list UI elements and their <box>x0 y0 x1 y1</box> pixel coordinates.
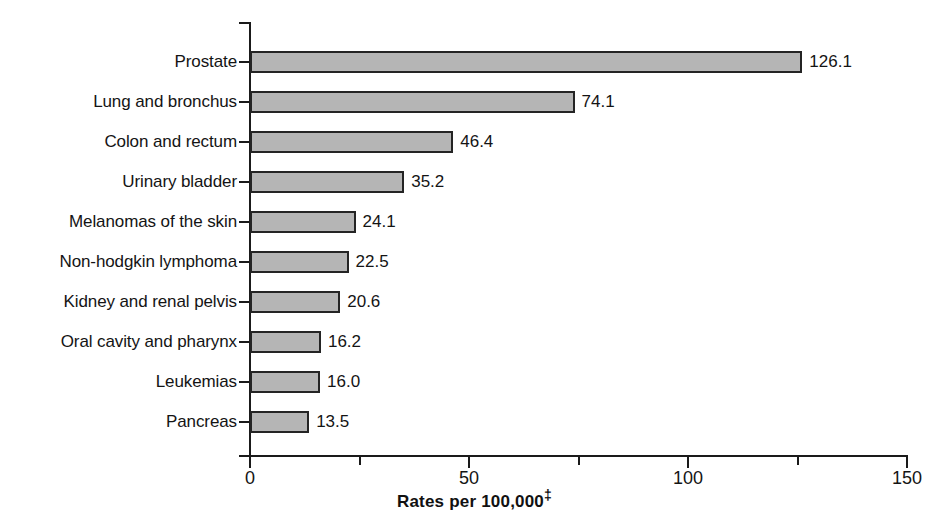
bar <box>250 91 575 113</box>
plot-area: Prostate126.1Lung and bronchus74.1Colon … <box>0 0 949 528</box>
footnote-marker: ‡ <box>544 487 552 503</box>
bar-value-label: 35.2 <box>411 162 444 202</box>
bar-value-label: 24.1 <box>363 202 396 242</box>
y-axis-tick <box>239 61 250 63</box>
x-axis-tick-label: 100 <box>673 468 703 489</box>
x-axis-major-tick <box>249 457 251 468</box>
bar-row: Pancreas13.5 <box>0 402 949 442</box>
bar-row: Non-hodgkin lymphoma22.5 <box>0 242 949 282</box>
x-axis-tick-label: 150 <box>892 468 922 489</box>
bar <box>250 51 802 73</box>
bar-row: Leukemias16.0 <box>0 362 949 402</box>
bar-row: Urinary bladder35.2 <box>0 162 949 202</box>
x-axis-major-tick <box>687 457 689 468</box>
bar-chart: Prostate126.1Lung and bronchus74.1Colon … <box>0 0 949 528</box>
bar <box>250 131 453 153</box>
bar-value-label: 74.1 <box>582 82 615 122</box>
x-axis-major-tick <box>468 457 470 468</box>
bar-value-label: 22.5 <box>356 242 389 282</box>
y-axis-tick <box>239 221 250 223</box>
y-axis-tick <box>239 181 250 183</box>
bar <box>250 211 356 233</box>
y-axis-tick <box>239 301 250 303</box>
bar <box>250 291 340 313</box>
category-label: Melanomas of the skin <box>69 202 237 242</box>
category-label: Lung and bronchus <box>93 82 237 122</box>
x-axis-title: Rates per 100,000‡ <box>0 492 949 512</box>
category-label: Leukemias <box>156 362 237 402</box>
y-axis-tick <box>239 101 250 103</box>
y-axis-tick <box>239 261 250 263</box>
y-axis-tick <box>239 341 250 343</box>
category-label: Non-hodgkin lymphoma <box>59 242 237 282</box>
y-axis-tick <box>239 421 250 423</box>
x-axis-major-tick <box>906 457 908 468</box>
x-axis-title-text: Rates per 100,000‡ <box>397 492 552 511</box>
category-label: Colon and rectum <box>104 122 237 162</box>
x-axis-minor-tick <box>359 457 361 465</box>
bar-value-label: 16.2 <box>328 322 361 362</box>
y-axis-tick <box>239 381 250 383</box>
category-label: Urinary bladder <box>122 162 237 202</box>
y-axis-top-tick <box>239 22 250 24</box>
bar-value-label: 126.1 <box>809 42 852 82</box>
bar-row: Oral cavity and pharynx16.2 <box>0 322 949 362</box>
x-axis-minor-tick <box>797 457 799 465</box>
category-label: Pancreas <box>166 402 237 442</box>
bar <box>250 411 309 433</box>
x-axis-tick-label: 50 <box>459 468 479 489</box>
bar-row: Colon and rectum46.4 <box>0 122 949 162</box>
bar-value-label: 16.0 <box>327 362 360 402</box>
bar-row: Kidney and renal pelvis20.6 <box>0 282 949 322</box>
bar-row: Lung and bronchus74.1 <box>0 82 949 122</box>
bar-value-label: 20.6 <box>347 282 380 322</box>
bar <box>250 251 349 273</box>
bar <box>250 171 404 193</box>
bar-value-label: 13.5 <box>316 402 349 442</box>
bar-value-label: 46.4 <box>460 122 493 162</box>
category-label: Prostate <box>174 42 237 82</box>
bar-row: Prostate126.1 <box>0 42 949 82</box>
category-label: Kidney and renal pelvis <box>64 282 237 322</box>
category-label: Oral cavity and pharynx <box>61 322 237 362</box>
bar <box>250 371 320 393</box>
y-axis-tick <box>239 141 250 143</box>
bar-row: Melanomas of the skin24.1 <box>0 202 949 242</box>
x-axis-minor-tick <box>578 457 580 465</box>
x-axis-tick-label: 0 <box>245 468 255 489</box>
bar <box>250 331 321 353</box>
